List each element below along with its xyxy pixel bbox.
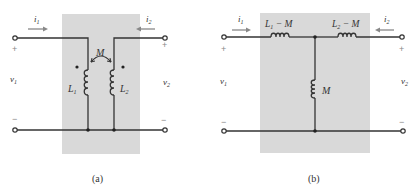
- terminal-top-left-b[interactable]: [222, 35, 226, 39]
- terminal-bottom-left-b[interactable]: [222, 129, 226, 133]
- polarity-dot-l1-a: [75, 65, 78, 68]
- current-label-i1-b: i1: [238, 14, 244, 25]
- circuit-figure: i1 i2 + + − − v1 v2 L1 L2 M (a): [0, 0, 417, 192]
- shaded-box-a: [62, 14, 140, 154]
- terminal-top-left-a[interactable]: [13, 36, 17, 40]
- current-arrowhead-left-a: [43, 27, 48, 32]
- minus-right-b: −: [399, 117, 404, 127]
- current-label-i2-a: i2: [146, 14, 152, 25]
- terminal-bottom-left-a[interactable]: [13, 128, 17, 132]
- caption-a: (a): [92, 173, 103, 185]
- terminal-top-right-b[interactable]: [400, 35, 404, 39]
- panel-a: i1 i2 + + − − v1 v2 L1 L2 M (a): [10, 14, 170, 185]
- panel-b: i1 i2 + + − − v1 v2 L1 − M L2 − M M (b): [220, 13, 408, 185]
- minus-left-b: −: [221, 117, 226, 127]
- node-top-b: [313, 35, 317, 39]
- plus-right-b: +: [399, 44, 404, 54]
- minus-left-a: −: [12, 114, 17, 124]
- node-bottom-b: [313, 129, 317, 133]
- current-label-i1-a: i1: [34, 14, 40, 25]
- plus-left-a: +: [12, 44, 17, 54]
- polarity-dot-l2-a: [121, 65, 124, 68]
- voltage-label-v1-b: v1: [220, 76, 227, 87]
- shunt-label-b: M: [321, 85, 331, 96]
- series-label-left-b: L1 − M: [264, 19, 293, 30]
- minus-right-a: −: [161, 115, 166, 125]
- plus-right-a: +: [162, 40, 167, 50]
- plus-left-b: +: [221, 44, 226, 54]
- current-arrowhead-left-b: [246, 28, 251, 33]
- voltage-label-v2-a: v2: [163, 77, 170, 88]
- mutual-label-a: M: [95, 47, 105, 58]
- terminal-bottom-right-a[interactable]: [163, 128, 167, 132]
- current-arrowhead-right-b: [375, 28, 380, 33]
- node-l2-a: [112, 128, 116, 132]
- series-label-right-b: L2 − M: [331, 19, 360, 30]
- voltage-label-v2-b: v2: [401, 76, 408, 87]
- terminal-bottom-right-b[interactable]: [401, 129, 405, 133]
- voltage-label-v1-a: v1: [10, 74, 17, 85]
- caption-b: (b): [308, 173, 320, 185]
- current-label-i2-b: i2: [384, 14, 390, 25]
- node-l1-a: [86, 128, 90, 132]
